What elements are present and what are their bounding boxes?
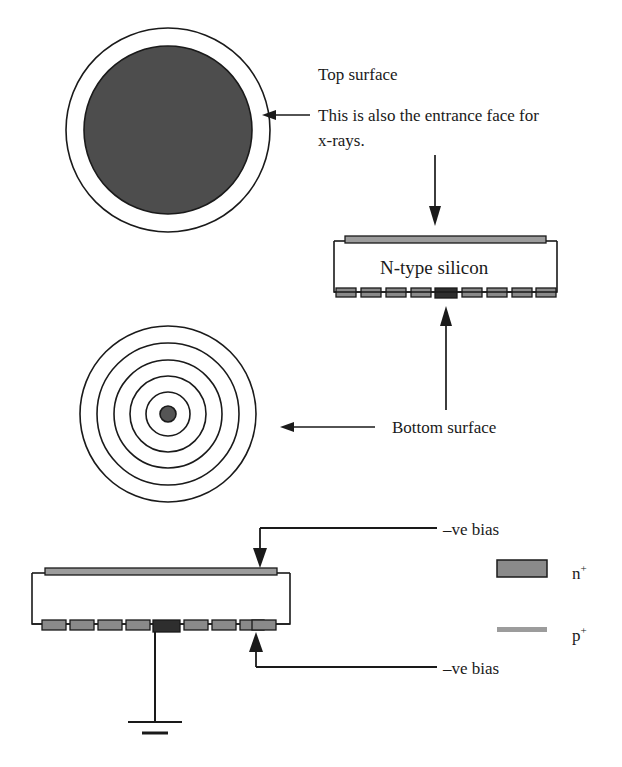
- figure-canvas: Top surface This is also the entrance fa…: [0, 0, 622, 767]
- legend-superscript-n: +: [581, 562, 587, 574]
- label-entrance-face-line1: This is also the entrance face for: [318, 103, 539, 128]
- bottom-surface-view: [80, 326, 256, 502]
- ground-connection: [128, 632, 182, 733]
- bias-top-arrowhead: [253, 548, 267, 568]
- bottom-surface-up-arrow: [440, 306, 452, 410]
- legend-symbol-p: p: [572, 626, 581, 645]
- bottom-surface-pointer-arrow: [280, 422, 375, 432]
- legend-label-n-plus: n+: [572, 556, 587, 586]
- bias-bottom-arrowhead: [249, 632, 263, 652]
- n-plus-contacts-upper: [336, 288, 556, 298]
- label-n-type-silicon: N-type silicon: [380, 255, 488, 280]
- bias-top-wire: [253, 528, 404, 568]
- bias-bottom-wire: [249, 632, 404, 667]
- n-plus-contacts-lower: [42, 620, 276, 632]
- cross-section-lower: [32, 568, 290, 632]
- label-bias-top: –ve bias: [443, 517, 499, 542]
- legend-swatch-p-plus: [497, 627, 547, 632]
- legend-superscript-p: +: [581, 624, 587, 636]
- silicon-body-outline-lower: [32, 573, 290, 624]
- legend-swatch-n-plus: [497, 560, 547, 577]
- label-top-surface: Top surface: [318, 62, 398, 87]
- entrance-face-down-arrow: [429, 155, 441, 226]
- label-entrance-face-line2: x-rays.: [318, 128, 365, 153]
- n-plus-anode-contact-upper: [435, 288, 457, 298]
- legend-symbol-n: n: [572, 564, 581, 583]
- p-plus-layer-lower: [45, 568, 277, 575]
- n-plus-anode-contact-lower: [153, 620, 180, 632]
- label-bias-bottom: –ve bias: [443, 656, 499, 681]
- label-bottom-surface: Bottom surface: [392, 415, 496, 440]
- top-surface-view: [66, 28, 270, 232]
- bottom-view-center-dot: [160, 406, 176, 422]
- p-plus-layer-upper: [345, 236, 546, 243]
- top-view-inner-disc: [84, 46, 252, 214]
- legend-label-p-plus: p+: [572, 618, 587, 648]
